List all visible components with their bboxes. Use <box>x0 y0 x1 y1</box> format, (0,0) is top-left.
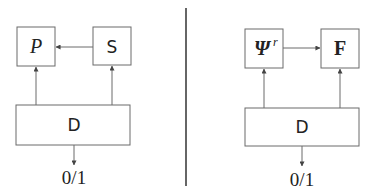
left-box-s: S <box>93 27 131 65</box>
left-output-label: 0/1 <box>62 167 86 188</box>
left-box-s-label: S <box>107 37 118 57</box>
diagram-canvas: P S D 0/1 Ψ r F <box>0 0 374 195</box>
psi-symbol: Ψ <box>254 37 272 59</box>
right-box-psi: Ψ r <box>245 29 283 68</box>
left-box-d-label: D <box>67 115 80 135</box>
right-box-f-label: F <box>334 37 346 59</box>
right-panel: Ψ r F D 0/1 <box>245 29 359 190</box>
right-box-d-label: D <box>295 117 308 137</box>
right-output-label: 0/1 <box>290 169 314 190</box>
left-box-p: P <box>17 27 55 66</box>
left-box-d: D <box>16 105 130 145</box>
psi-superscript: r <box>273 35 278 49</box>
right-box-d: D <box>245 108 359 146</box>
right-box-f: F <box>321 29 359 68</box>
left-panel: P S D 0/1 <box>16 27 131 188</box>
left-box-p-label: P <box>29 35 42 57</box>
right-box-psi-label: Ψ <box>254 37 272 59</box>
